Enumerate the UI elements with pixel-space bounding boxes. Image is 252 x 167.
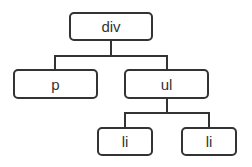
node-label: div	[101, 18, 120, 35]
node-p: p	[13, 69, 98, 99]
node-label: li	[122, 133, 129, 150]
node-div: div	[69, 12, 153, 41]
node-li-1: li	[97, 127, 153, 156]
node-li-2: li	[181, 127, 237, 156]
node-ul: ul	[124, 69, 209, 99]
node-label: ul	[161, 76, 173, 93]
node-label: p	[51, 76, 59, 93]
node-label: li	[206, 133, 213, 150]
